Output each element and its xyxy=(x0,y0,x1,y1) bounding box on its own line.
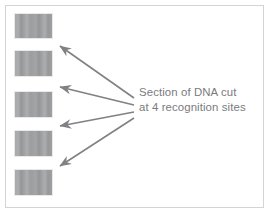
caption-line-1: Section of DNA cut xyxy=(139,85,267,100)
caption-line-2: at 4 recognition sites xyxy=(139,100,267,115)
dna-restriction-digest-figure: Section of DNA cut at 4 recognition site… xyxy=(0,0,272,215)
dna-band-5 xyxy=(14,169,53,196)
dna-band-4 xyxy=(14,130,53,157)
dna-band-2 xyxy=(14,50,53,77)
caption-text: Section of DNA cut at 4 recognition site… xyxy=(139,85,267,115)
dna-band-3 xyxy=(14,91,53,118)
dna-band-1 xyxy=(14,13,53,39)
